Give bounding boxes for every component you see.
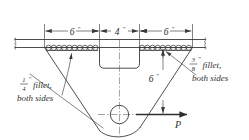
bracket-drawing-svg: 6 ″ 4 ″ 6 ″ 6 ″ 1 4 ″ fillet, both sides… (0, 0, 249, 140)
fillet-weld-left (46, 45, 98, 50)
weld-note-left-line2: both sides (17, 93, 54, 103)
force-label-p: P (174, 119, 181, 130)
dimension-label-center-notch: 4 ″ (115, 25, 126, 37)
inch-mark-left: ″ (78, 25, 81, 32)
weld-note-right-numerator: 3 (191, 56, 196, 63)
force-label-text: P (174, 119, 181, 130)
weld-note-left: 1 4 ″ fillet, both sides (17, 75, 54, 103)
dimension-value-left: 6 (70, 27, 75, 37)
dimension-value-depth: 6 (149, 74, 154, 84)
fillet-weld-right (140, 45, 192, 50)
support-plate (15, 40, 206, 48)
dimension-value-center: 4 (115, 27, 120, 37)
weld-note-left-line1: fillet, (33, 80, 52, 90)
weld-note-right-line2: both sides (192, 73, 229, 83)
weld-note-left-numerator: 1 (22, 76, 25, 83)
dimension-label-left-span: 6 ″ (70, 25, 81, 37)
dimension-label-depth: 6 ″ (149, 72, 159, 84)
weld-note-right: 3 8 ″ fillet, both sides (190, 55, 229, 83)
leader-line-left-weld (30, 54, 103, 129)
weld-note-left-inch-mark: ″ (29, 75, 32, 82)
engineering-drawing-canvas: 6 ″ 4 ″ 6 ″ 6 ″ 1 4 ″ fillet, both sides… (0, 0, 249, 140)
weld-note-right-denominator: 8 (192, 65, 196, 72)
dimension-value-right: 6 (164, 27, 169, 37)
inch-mark-depth: ″ (156, 72, 159, 79)
weld-note-left-denominator: 4 (22, 85, 26, 92)
weld-note-right-inch-mark: ″ (198, 55, 201, 62)
dimension-label-right-span: 6 ″ (164, 25, 175, 37)
weld-note-right-line1: fillet, (203, 60, 222, 70)
inch-mark-center: ″ (123, 25, 126, 32)
inch-mark-right: ″ (172, 25, 175, 32)
